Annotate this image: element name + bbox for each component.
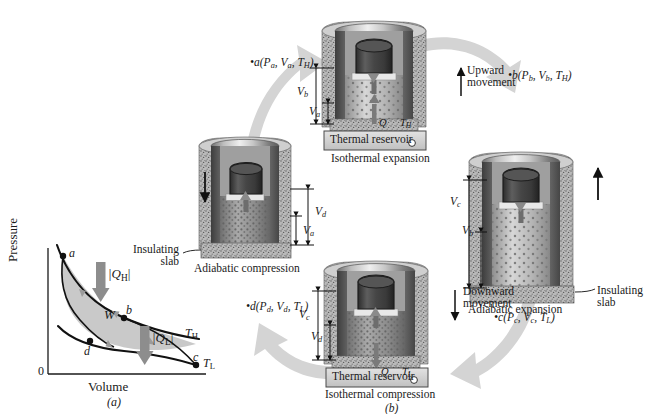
vb-sub-r: b	[469, 229, 473, 238]
thermal-reservoir-label-top: Thermal reservoir	[330, 133, 413, 145]
volume-label-bottom-lower: Vd	[311, 330, 322, 345]
state-label-c: •c(Pc, Vc, TL)	[494, 311, 555, 326]
insulating-slab-label-right: Insulatingslab	[597, 284, 643, 308]
pv-heat-in-label: |QH|	[108, 267, 130, 283]
state-a-mid2: , T	[292, 56, 304, 68]
insulating-slab-label-left: Insulatingslab	[133, 243, 179, 267]
state-a-mid: , V	[275, 56, 288, 68]
state-a-end: )	[310, 56, 314, 68]
process-caption-top: Isothermal expansion	[331, 152, 430, 164]
heat-in-end: |	[128, 266, 131, 281]
ins-right-line1: Insulating	[597, 284, 643, 296]
state-c-mid: , V	[518, 311, 531, 323]
state-c-end: )	[551, 311, 555, 323]
tl-symbol: T	[203, 356, 210, 370]
heat-out-end: |	[171, 330, 174, 345]
ins-right-line2: slab	[597, 296, 616, 308]
vb-symbol-r: V	[462, 224, 469, 236]
pv-origin-label: 0	[38, 365, 44, 378]
state-c-mid2: , T	[534, 311, 546, 323]
pv-xlabel: Volume	[88, 380, 128, 394]
vd-sub-l: d	[322, 210, 326, 219]
va-symbol-l: V	[303, 224, 310, 236]
pv-label-c: c	[193, 351, 198, 364]
state-b-prefix: b(P	[512, 69, 529, 81]
state-label-b: •b(Pb, Vb, TH)	[508, 69, 572, 84]
cylinder-left-adiabatic-compression	[183, 137, 314, 258]
upward-line1: Upward	[467, 64, 504, 76]
pv-heat-out-label: |QL|	[152, 331, 173, 347]
process-caption-left: Adiabatic compression	[194, 262, 300, 274]
state-d-prefix: d(P	[250, 300, 267, 312]
vd-symbol-l: V	[315, 205, 322, 217]
volume-label-left-upper: Vd	[315, 205, 326, 220]
pv-work-label: W	[104, 308, 115, 322]
pv-isotherm-cold-label: TL	[203, 357, 215, 371]
volume-label-right-lower: Vb	[462, 224, 473, 239]
heat-symbol-top: Q	[379, 117, 387, 128]
state-b-mid: , V	[533, 69, 546, 81]
pv-isotherm-hot-label: TH	[185, 327, 198, 341]
state-b-mid2: , T	[550, 69, 562, 81]
downward-movement-label: Downwardmovement	[463, 285, 514, 309]
reservoir-temp-top: TH	[400, 117, 411, 130]
process-caption-bottom: Isothermal compression	[325, 388, 435, 400]
panel-b-caption: (b)	[385, 402, 398, 414]
downward-line1: Downward	[463, 285, 514, 297]
insulating-slab-left	[201, 243, 291, 258]
state-label-d: •d(Pd, Vd, TL)	[246, 300, 308, 315]
insulating-slab-leader-left	[183, 250, 201, 253]
volume-label-left-lower: Va	[303, 224, 314, 239]
pv-heat-in-arrow	[92, 262, 110, 302]
state-d-mid: , V	[271, 300, 284, 312]
state-d-end: )	[304, 300, 308, 312]
state-b-end: )	[568, 69, 572, 81]
heat-in-text: |Q	[108, 266, 121, 281]
vb-symbol: V	[297, 85, 304, 97]
state-d-mid2: , T	[288, 300, 300, 312]
vd-sub-b: d	[318, 335, 322, 344]
pv-label-a: a	[69, 247, 75, 260]
cylinder-right-adiabatic-expansion	[463, 152, 598, 303]
pv-label-b: b	[126, 304, 132, 317]
th-symbol: T	[185, 326, 192, 340]
pv-point-a	[60, 253, 66, 259]
pv-label-d: d	[84, 345, 90, 358]
va-symbol: V	[309, 105, 316, 117]
state-label-a: •a(Pa, Va, TH)	[250, 56, 314, 71]
volume-label-right-upper: Vc	[450, 195, 461, 210]
panel-a-caption: (a)	[107, 396, 121, 409]
state-c-prefix: c(P	[498, 311, 514, 323]
pv-ylabel: Pressure	[6, 218, 20, 262]
vd-symbol-b: V	[311, 330, 318, 342]
ins-left-line1: Insulating	[133, 243, 179, 255]
th-sub: H	[192, 331, 198, 341]
va-sub: a	[316, 110, 320, 119]
insulating-slab-leader-right	[575, 289, 595, 292]
volume-label-top-lower: Va	[309, 105, 320, 120]
res-th-sub: H	[406, 121, 411, 130]
thermal-reservoir-label-bottom: Thermal reservoir	[332, 370, 415, 382]
heat-out-text: |Q	[152, 330, 165, 345]
ins-left-line2: slab	[160, 255, 179, 267]
vc-symbol-r: V	[450, 195, 457, 207]
volume-label-top-upper: Vb	[297, 85, 308, 100]
va-sub-l: a	[310, 229, 314, 238]
vc-sub-r: c	[457, 200, 461, 209]
downward-line2: movement	[463, 297, 512, 309]
heat-in-sub: H	[121, 273, 128, 283]
tl-sub: L	[210, 361, 215, 371]
vb-sub: b	[304, 90, 308, 99]
state-a-prefix: a(P	[254, 56, 271, 68]
